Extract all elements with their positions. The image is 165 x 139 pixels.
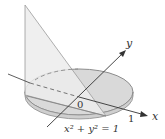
- diagram-canvas: [0, 0, 165, 139]
- tick-one-label: 1: [128, 114, 134, 124]
- x-axis-label: x: [152, 111, 158, 122]
- equation-label: x² + y² = 1: [64, 124, 119, 134]
- y-axis-label: y: [126, 38, 132, 49]
- origin-label: 0: [77, 100, 83, 110]
- x-axis-arrowhead: [140, 111, 148, 117]
